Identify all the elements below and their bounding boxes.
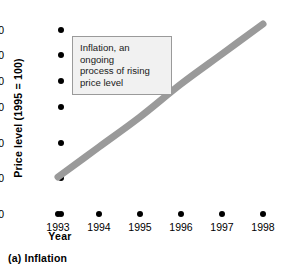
figure-caption: (a) Inflation — [8, 252, 67, 264]
annotation-line-2: process of rising — [80, 65, 165, 77]
inflation-chart-figure: Price level (1995 = 100) 150 140 130 120… — [0, 0, 295, 272]
annotation-callout: Inflation, an ongoing process of rising … — [72, 36, 172, 95]
annotation-line-1: Inflation, an ongoing — [80, 42, 165, 65]
annotation-line-3: price level — [80, 77, 165, 89]
